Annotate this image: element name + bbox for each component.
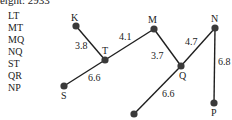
node-label-t: T	[102, 46, 108, 56]
edge-weight-kt: 3.8	[75, 41, 88, 51]
edge-weight-tm: 4.1	[119, 32, 132, 42]
node-label-s: S	[61, 91, 67, 101]
node-n	[211, 24, 218, 31]
node-s	[60, 82, 67, 89]
edge-weight-np: 6.8	[218, 57, 231, 67]
edge-weight-mq: 3.7	[151, 51, 164, 61]
node-r	[130, 110, 137, 117]
node-label-m: M	[148, 15, 157, 25]
node-p	[210, 99, 217, 106]
edge-weight-qr: 6.6	[162, 89, 175, 99]
node-label-p: P	[211, 108, 217, 118]
edge-weight-ts: 6.6	[88, 73, 101, 83]
node-t	[101, 56, 108, 63]
node-q	[177, 62, 184, 69]
node-label-q: Q	[179, 71, 186, 81]
edge-weight-qn: 4.7	[185, 37, 198, 47]
node-k	[72, 22, 79, 29]
node-label-k: K	[71, 13, 78, 23]
node-label-n: N	[211, 14, 218, 24]
node-m	[150, 25, 157, 32]
edge-np	[214, 28, 215, 103]
graph-canvas	[0, 0, 232, 120]
edge-qn	[181, 28, 215, 66]
